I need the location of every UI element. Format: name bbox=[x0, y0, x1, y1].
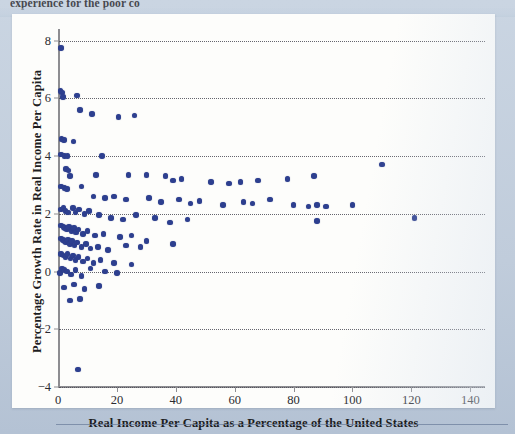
data-point bbox=[126, 172, 132, 178]
x-tick-mark bbox=[470, 386, 471, 392]
data-point bbox=[120, 217, 126, 223]
data-point bbox=[220, 202, 226, 208]
x-tick-mark bbox=[235, 386, 236, 392]
data-point bbox=[91, 194, 97, 200]
data-point bbox=[79, 184, 85, 190]
x-tick-mark bbox=[176, 386, 177, 392]
scatter-plot: 86420−2−4 020406080100120140 bbox=[58, 29, 485, 387]
data-point bbox=[108, 215, 114, 221]
gridline-y-2 bbox=[59, 214, 485, 215]
data-point bbox=[61, 285, 67, 291]
data-point bbox=[138, 244, 144, 250]
data-point bbox=[167, 220, 173, 226]
y-tick-label: 0 bbox=[45, 264, 51, 279]
data-point bbox=[76, 207, 82, 213]
data-point bbox=[77, 296, 83, 302]
data-point bbox=[96, 212, 102, 218]
data-point bbox=[88, 246, 94, 252]
data-point bbox=[67, 298, 73, 304]
data-point bbox=[311, 173, 317, 179]
data-point bbox=[64, 186, 70, 192]
data-point bbox=[61, 137, 67, 143]
data-point bbox=[314, 202, 320, 208]
data-point bbox=[241, 199, 247, 205]
y-tick-mark bbox=[54, 213, 59, 214]
gridline-y-4 bbox=[59, 156, 485, 157]
x-tick-mark bbox=[294, 386, 295, 392]
data-point bbox=[82, 286, 88, 292]
y-tick-label: 6 bbox=[45, 91, 51, 106]
data-point bbox=[291, 202, 297, 208]
data-point bbox=[146, 195, 152, 201]
data-point bbox=[65, 153, 71, 159]
data-point bbox=[114, 270, 120, 276]
y-tick-label: 4 bbox=[45, 149, 51, 164]
data-point bbox=[197, 198, 203, 204]
x-tick-label: 20 bbox=[111, 393, 124, 408]
data-point bbox=[66, 168, 72, 174]
x-tick-mark bbox=[352, 386, 353, 392]
data-point bbox=[79, 273, 85, 279]
data-point bbox=[91, 260, 97, 266]
data-point bbox=[179, 176, 185, 182]
data-point bbox=[350, 202, 356, 208]
x-tick-label: 40 bbox=[170, 393, 183, 408]
data-point bbox=[105, 247, 111, 253]
data-point bbox=[306, 204, 312, 210]
data-point bbox=[58, 45, 64, 51]
data-point bbox=[323, 204, 329, 210]
data-point bbox=[75, 367, 81, 373]
data-point bbox=[96, 283, 102, 289]
y-tick-mark bbox=[54, 329, 59, 330]
data-point bbox=[132, 113, 138, 119]
data-point bbox=[267, 197, 273, 203]
data-point bbox=[102, 269, 108, 275]
data-point bbox=[188, 201, 194, 207]
figure-card: Percentage Growth Rate in Real Income Pe… bbox=[12, 14, 495, 408]
data-point bbox=[92, 233, 98, 239]
data-point bbox=[170, 241, 176, 247]
data-point bbox=[111, 260, 117, 266]
data-point bbox=[67, 173, 73, 179]
data-point bbox=[93, 172, 99, 178]
data-point bbox=[111, 194, 117, 200]
gridline-y--4 bbox=[59, 387, 485, 388]
data-point bbox=[250, 201, 256, 207]
data-point bbox=[60, 94, 66, 100]
data-point bbox=[129, 233, 135, 239]
data-point bbox=[144, 238, 150, 244]
x-tick-label: 120 bbox=[402, 393, 421, 408]
gridline-y--2 bbox=[59, 329, 485, 330]
gridline-y-8 bbox=[59, 41, 485, 42]
data-point bbox=[129, 262, 135, 268]
data-point bbox=[101, 231, 107, 237]
data-point bbox=[226, 181, 232, 187]
data-point bbox=[71, 139, 77, 145]
data-point bbox=[412, 215, 418, 221]
page-root: experience for the poor co Percentage Gr… bbox=[0, 0, 515, 434]
data-point bbox=[86, 208, 92, 214]
data-point bbox=[65, 210, 71, 216]
data-point bbox=[102, 195, 108, 201]
data-point bbox=[89, 111, 95, 117]
data-point bbox=[158, 199, 164, 205]
data-point bbox=[116, 114, 122, 120]
data-point bbox=[208, 179, 214, 185]
data-point bbox=[238, 179, 244, 185]
data-point bbox=[123, 197, 129, 203]
data-point bbox=[74, 93, 80, 99]
y-tick-mark bbox=[54, 40, 59, 41]
data-point bbox=[285, 176, 291, 182]
data-point bbox=[185, 217, 191, 223]
data-point bbox=[95, 244, 101, 250]
y-axis-title-text: Percentage Growth Rate in Real Income Pe… bbox=[31, 69, 46, 352]
x-tick-mark bbox=[411, 386, 412, 392]
data-point bbox=[152, 215, 158, 221]
data-point bbox=[85, 256, 91, 262]
data-point bbox=[314, 218, 320, 224]
x-tick-label: 60 bbox=[228, 393, 241, 408]
data-point bbox=[77, 107, 83, 113]
y-tick-mark bbox=[54, 98, 59, 99]
data-point bbox=[123, 243, 129, 249]
data-point bbox=[170, 178, 176, 184]
